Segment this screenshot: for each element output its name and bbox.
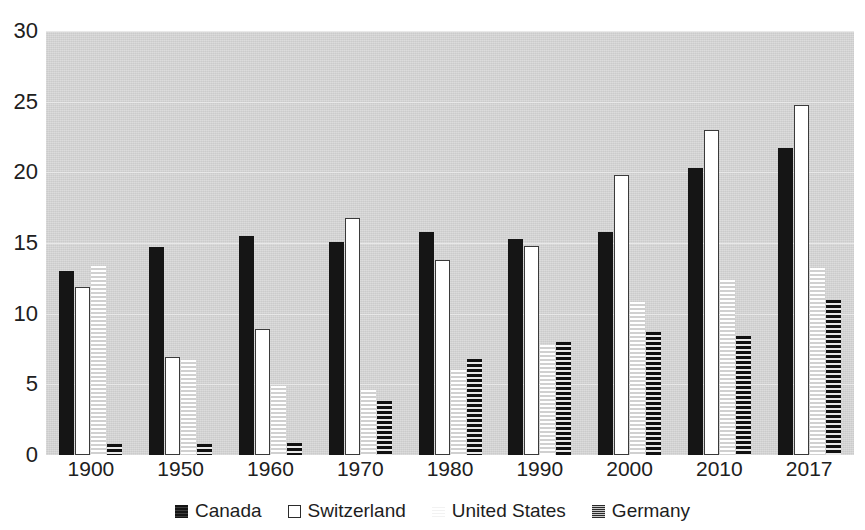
bar-group-1990 [495,31,585,455]
legend-label: United States [452,500,566,522]
legend-label: Switzerland [308,500,406,522]
bar-switzerland-2000[interactable] [614,175,629,455]
y-tick-label: 10 [14,301,38,327]
x-tick-label-2017: 2017 [764,457,854,491]
legend-swatch-germany-icon [592,505,605,518]
legend-label: Germany [612,500,690,522]
bar-united-states-1990[interactable] [540,345,555,455]
bar-germany-1900[interactable] [107,444,122,455]
x-tick-label-1960: 1960 [226,457,316,491]
x-tick-label-1950: 1950 [136,457,226,491]
x-tick-label-1990: 1990 [495,457,585,491]
plot-area [46,31,854,455]
bar-germany-1990[interactable] [556,342,571,455]
y-axis: 30 25 20 15 10 5 0 [0,0,46,470]
legend-item-united-states[interactable]: United States [432,500,566,522]
bar-switzerland-2017[interactable] [794,105,809,456]
bar-germany-2017[interactable] [826,300,841,455]
bar-canada-2017[interactable] [778,148,793,455]
bar-united-states-1980[interactable] [451,370,466,455]
y-tick-label: 20 [14,159,38,185]
bar-switzerland-1900[interactable] [75,287,90,455]
bar-group-1900 [46,31,136,455]
bar-groups [46,31,854,455]
bar-canada-1950[interactable] [149,247,164,455]
bar-chart: 30 25 20 15 10 5 0 190019501960197019801… [0,0,865,530]
bar-group-1980 [405,31,495,455]
bar-united-states-1970[interactable] [361,390,376,455]
bar-united-states-2010[interactable] [720,280,735,455]
x-tick-label-2000: 2000 [585,457,675,491]
bar-switzerland-1970[interactable] [345,218,360,455]
legend-label: Canada [195,500,262,522]
legend-item-canada[interactable]: Canada [175,500,262,522]
bar-switzerland-1960[interactable] [255,329,270,455]
bar-germany-2000[interactable] [646,332,661,455]
bar-group-2010 [674,31,764,455]
bar-united-states-2017[interactable] [810,268,825,455]
bar-canada-1960[interactable] [239,236,254,455]
x-tick-label-1900: 1900 [46,457,136,491]
bar-switzerland-2010[interactable] [704,130,719,455]
bar-united-states-1900[interactable] [91,266,106,455]
bar-group-1950 [136,31,226,455]
x-tick-label-1970: 1970 [315,457,405,491]
legend-swatch-united-states-icon [432,505,445,518]
bar-canada-2010[interactable] [688,168,703,455]
bar-group-1970 [315,31,405,455]
x-axis: 190019501960197019801990200020102017 [46,457,854,491]
bar-group-1960 [226,31,316,455]
bar-germany-1970[interactable] [377,401,392,455]
legend-swatch-switzerland-icon [288,505,301,518]
bar-germany-1950[interactable] [197,444,212,455]
legend-swatch-canada-icon [175,505,188,518]
y-tick-label: 25 [14,89,38,115]
y-tick-label: 0 [26,442,38,468]
x-tick-label-1980: 1980 [405,457,495,491]
bar-canada-1970[interactable] [329,242,344,455]
bar-canada-2000[interactable] [598,232,613,455]
bar-group-2000 [585,31,675,455]
bar-germany-1960[interactable] [287,443,302,455]
bar-switzerland-1990[interactable] [524,246,539,455]
bar-germany-2010[interactable] [736,336,751,455]
bar-group-2017 [764,31,854,455]
bar-united-states-1960[interactable] [271,386,286,455]
y-tick-label: 30 [14,18,38,44]
bar-canada-1900[interactable] [59,271,74,455]
y-tick-label: 5 [26,371,38,397]
bar-canada-1990[interactable] [508,239,523,455]
legend: CanadaSwitzerlandUnited StatesGermany [0,496,865,526]
bar-germany-1980[interactable] [467,359,482,455]
bar-switzerland-1980[interactable] [435,260,450,455]
x-tick-label-2010: 2010 [674,457,764,491]
legend-item-germany[interactable]: Germany [592,500,690,522]
bar-united-states-2000[interactable] [630,302,645,455]
bar-canada-1980[interactable] [419,232,434,455]
y-tick-label: 15 [14,230,38,256]
bar-united-states-1950[interactable] [181,360,196,455]
legend-item-switzerland[interactable]: Switzerland [288,500,406,522]
bar-switzerland-1950[interactable] [165,357,180,455]
